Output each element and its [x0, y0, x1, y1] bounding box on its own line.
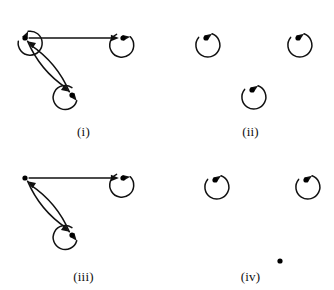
panel-i-edge-c-to-a-curve	[31, 45, 70, 92]
panel-iii-edge-a-to-c-curve	[28, 181, 67, 228]
panel-label-iv: (iv)	[167, 269, 334, 284]
panel-iii-edge-c-to-a-curve	[31, 185, 70, 232]
panel-iv-vertex-c-node	[277, 258, 282, 263]
panel-i-vertex-b-node	[120, 35, 125, 40]
graph-panel-iv: (iv)	[167, 145, 334, 290]
panel-i-vertex-a-node	[22, 35, 27, 40]
panel-i-vertex-c-node	[69, 92, 74, 97]
panel-i-edge-a-to-c-curve	[28, 41, 67, 88]
panel-iv-vertex-a-node	[212, 177, 217, 182]
panel-iii-vertex-c-node	[69, 232, 74, 237]
graph-panel-ii: (ii)	[167, 0, 334, 145]
panel-label-ii: (ii)	[167, 124, 334, 139]
panel-ii-vertex-c-node	[249, 87, 254, 92]
graph-panel-i: (i)	[0, 0, 167, 145]
graph-panel-iii: (iii)	[0, 145, 167, 290]
panel-iii-vertex-a-node	[22, 175, 27, 180]
panel-label-iii: (iii)	[0, 269, 167, 284]
panel-iv-vertex-b-node	[303, 177, 308, 182]
panel-label-i: (i)	[0, 124, 167, 139]
panel-ii-vertex-b-node	[295, 35, 300, 40]
panel-iii-vertex-b-node	[120, 175, 125, 180]
panel-ii-vertex-a-node	[203, 35, 208, 40]
figure-root: (i) (ii) (iii) (iv)	[0, 0, 334, 290]
